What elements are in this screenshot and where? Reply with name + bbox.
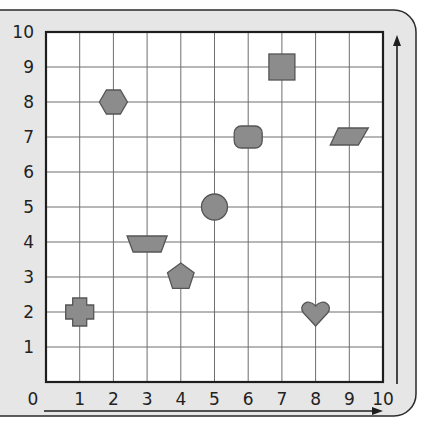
y-tick-label: 10	[12, 22, 34, 42]
x-tick-label: 0	[28, 389, 39, 409]
x-tick-label: 7	[276, 389, 287, 409]
trapezoid-shape-icon	[127, 236, 167, 252]
x-tick-label: 5	[209, 389, 220, 409]
y-tick-label: 2	[23, 302, 34, 322]
y-tick-label: 3	[23, 267, 34, 287]
x-tick-label: 4	[175, 389, 186, 409]
square-shape-icon	[269, 54, 295, 80]
x-tick-label: 1	[74, 389, 85, 409]
rounded-rectangle-shape-icon	[234, 126, 262, 148]
y-tick-label: 6	[23, 162, 34, 182]
circle-shape-icon	[202, 194, 228, 220]
x-tick-label: 10	[372, 389, 394, 409]
coordinate-grid-chart: 012345678910 12345678910	[0, 0, 434, 433]
x-tick-label: 6	[243, 389, 254, 409]
y-tick-label: 8	[23, 92, 34, 112]
x-tick-label: 8	[310, 389, 321, 409]
y-tick-label: 9	[23, 57, 34, 77]
y-tick-label: 1	[23, 337, 34, 357]
hexagon-shape-icon	[99, 90, 127, 114]
y-tick-label: 7	[23, 127, 34, 147]
y-tick-label: 4	[23, 232, 34, 252]
x-tick-label: 3	[142, 389, 153, 409]
x-tick-label: 9	[344, 389, 355, 409]
y-tick-label: 5	[23, 197, 34, 217]
x-tick-label: 2	[108, 389, 119, 409]
